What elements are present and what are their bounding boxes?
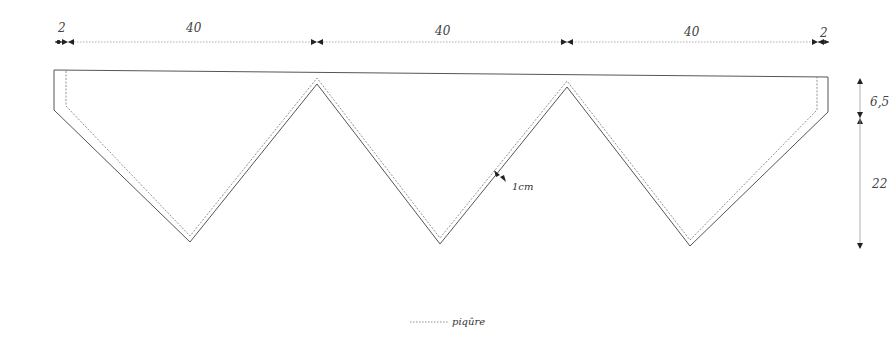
pattern-diagram: 2 40 40 40 2 1cm 6,5 22 piqûre — [0, 0, 890, 349]
dimension-label-segment-3: 40 — [683, 25, 700, 39]
seam-allowance-label: 1cm — [512, 181, 533, 192]
stitch-line — [66, 71, 817, 240]
top-dimension-line — [55, 39, 829, 45]
dimension-label-band-height: 6,5 — [870, 95, 889, 109]
seam-allowance-marker — [494, 170, 506, 182]
right-dimension-line — [857, 78, 863, 249]
dimension-label-segment-2: 40 — [434, 24, 451, 38]
legend: piqûre — [410, 316, 485, 327]
dimension-label-margin-left: 2 — [57, 21, 66, 35]
legend-stitch-label: piqûre — [452, 316, 485, 327]
dimension-label-point-height: 22 — [871, 177, 887, 191]
dimension-label-segment-1: 40 — [185, 21, 202, 35]
pattern-outline — [54, 70, 828, 246]
dimension-label-margin-right: 2 — [819, 26, 828, 40]
